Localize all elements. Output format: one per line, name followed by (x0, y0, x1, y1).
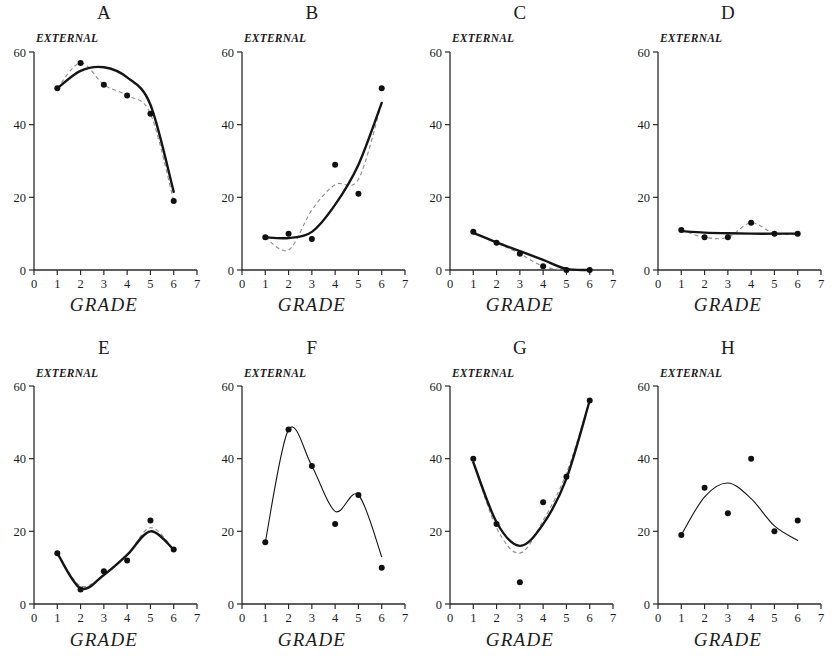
plot-area-f: 020406001234567 (208, 334, 416, 668)
data-point (678, 532, 684, 538)
x-tick-label: 4 (540, 277, 547, 291)
x-tick-label: 0 (447, 611, 453, 625)
y-tick-label: 40 (222, 118, 235, 132)
data-points (678, 456, 800, 538)
x-tick-label: 2 (701, 277, 707, 291)
x-tick-label: 1 (54, 277, 60, 291)
fitted-curve-solid (681, 231, 797, 234)
x-tick-label: 2 (493, 277, 499, 291)
x-tick-label: 1 (262, 277, 268, 291)
panel-g: G EXTERNAL GRADE 020406001234567 (416, 334, 624, 668)
y-tick-label: 20 (14, 525, 27, 539)
x-axis-ticks: 01234567 (447, 270, 616, 291)
x-tick-label: 5 (355, 611, 361, 625)
x-tick-label: 7 (402, 277, 408, 291)
x-tick-label: 5 (147, 277, 153, 291)
axes (658, 386, 821, 604)
data-point (171, 547, 177, 553)
data-point (355, 191, 361, 197)
data-point (286, 427, 292, 433)
axes (34, 52, 197, 270)
x-tick-label: 3 (101, 611, 107, 625)
panel-h: H EXTERNAL GRADE 020406001234567 (624, 334, 832, 668)
x-tick-label: 0 (239, 611, 245, 625)
x-tick-label: 1 (262, 611, 268, 625)
data-point (795, 231, 801, 237)
x-tick-label: 0 (31, 277, 37, 291)
y-tick-label: 40 (638, 452, 651, 466)
y-tick-label: 0 (644, 598, 650, 612)
y-tick-label: 20 (14, 191, 27, 205)
data-point (795, 517, 801, 523)
y-tick-label: 40 (638, 118, 651, 132)
y-tick-label: 60 (638, 46, 651, 60)
data-point (494, 240, 500, 246)
fitted-curve-solid (265, 103, 381, 238)
y-tick-label: 20 (222, 191, 235, 205)
data-point (101, 568, 107, 574)
fitted-curve-solid (57, 531, 173, 589)
y-tick-label: 0 (228, 264, 234, 278)
data-point (470, 456, 476, 462)
plot-area-a: 020406001234567 (0, 0, 208, 334)
fitted-curve-solid (473, 233, 589, 270)
fitted-curve-solid (473, 401, 589, 546)
y-tick-label: 40 (430, 118, 443, 132)
x-tick-label: 5 (147, 611, 153, 625)
y-tick-label: 60 (222, 46, 235, 60)
x-tick-label: 1 (470, 277, 476, 291)
y-tick-label: 0 (20, 264, 26, 278)
x-tick-label: 2 (285, 611, 291, 625)
x-tick-label: 4 (540, 611, 547, 625)
panel-b: B EXTERNAL GRADE 020406001234567 (208, 0, 416, 334)
fitted-curve-dashed (57, 528, 173, 587)
y-axis-ticks: 0204060 (14, 380, 35, 612)
x-tick-label: 3 (725, 277, 731, 291)
fitted-curve-dashed (265, 103, 381, 251)
x-tick-label: 5 (563, 277, 569, 291)
data-point (124, 557, 130, 563)
y-tick-label: 0 (228, 598, 234, 612)
plot-area-b: 020406001234567 (208, 0, 416, 334)
plot-area-d: 020406001234567 (624, 0, 832, 334)
axes (450, 386, 613, 604)
fitted-curve-solid (265, 427, 381, 557)
data-point (147, 517, 153, 523)
data-points (470, 398, 592, 586)
y-tick-label: 60 (222, 380, 235, 394)
x-tick-label: 6 (795, 277, 801, 291)
data-points (678, 220, 800, 241)
plot-area-h: 020406001234567 (624, 334, 832, 668)
data-point (101, 82, 107, 88)
data-point (771, 231, 777, 237)
x-tick-label: 3 (725, 611, 731, 625)
x-tick-label: 7 (194, 611, 200, 625)
x-tick-label: 7 (610, 277, 616, 291)
axes (658, 52, 821, 270)
x-tick-label: 1 (678, 611, 684, 625)
y-tick-label: 0 (20, 598, 26, 612)
data-point (379, 565, 385, 571)
y-tick-label: 0 (436, 598, 442, 612)
y-tick-label: 60 (638, 380, 651, 394)
x-tick-label: 4 (124, 277, 131, 291)
x-tick-label: 1 (678, 277, 684, 291)
x-axis-ticks: 01234567 (31, 604, 200, 625)
data-points (470, 229, 592, 273)
data-point (262, 539, 268, 545)
y-axis-ticks: 0204060 (638, 380, 659, 612)
y-tick-label: 40 (14, 118, 27, 132)
y-tick-label: 0 (644, 264, 650, 278)
x-tick-label: 2 (701, 611, 707, 625)
x-tick-label: 6 (795, 611, 801, 625)
x-axis-ticks: 01234567 (655, 604, 824, 625)
x-tick-label: 4 (748, 277, 755, 291)
x-tick-label: 0 (655, 277, 661, 291)
x-tick-label: 2 (285, 277, 291, 291)
x-tick-label: 2 (77, 277, 83, 291)
data-point (540, 499, 546, 505)
x-axis-ticks: 01234567 (239, 270, 408, 291)
data-point (309, 463, 315, 469)
x-tick-label: 3 (309, 611, 315, 625)
figure-panel-grid: A EXTERNAL GRADE 020406001234567 B EXTER… (0, 0, 832, 669)
